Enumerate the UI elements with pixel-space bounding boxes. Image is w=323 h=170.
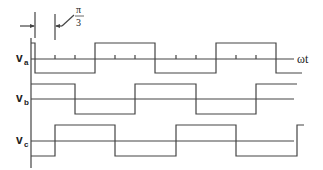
va-waveform — [31, 43, 302, 73]
vb-label: v — [16, 91, 23, 105]
svg-text:a: a — [24, 58, 29, 67]
arrowhead-right — [55, 24, 60, 28]
pi-label: π — [76, 4, 81, 15]
leader-line — [62, 15, 74, 26]
va-label: v — [16, 51, 23, 65]
vc-label: v — [16, 133, 23, 147]
omega-t-label: ωt — [297, 52, 309, 66]
svg-text:b: b — [24, 98, 29, 107]
arrowhead-left — [30, 24, 35, 28]
three-label: 3 — [76, 17, 81, 28]
waveform-diagram: π 3 v a v b v c ωt — [0, 0, 323, 170]
svg-text:c: c — [24, 140, 29, 149]
